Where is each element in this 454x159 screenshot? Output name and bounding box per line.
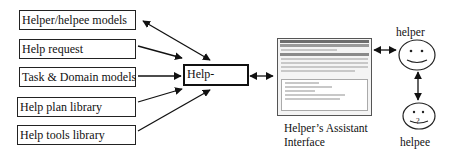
interface-label-line2: Interface	[284, 135, 368, 149]
help-plan-library-box: Help plan library	[17, 97, 136, 117]
helper-helpee-models-box: Helper/helpee models	[19, 10, 136, 30]
helpers-assistant-screenshot	[277, 38, 372, 116]
task-domain-models-box: Task & Domain models	[19, 67, 136, 87]
helper-face-icon	[397, 38, 437, 72]
interface-label-line1: Helper’s Assistant	[284, 121, 368, 135]
help-hub-box: Help-	[183, 64, 249, 86]
help-tools-library-box: Help tools library	[17, 125, 136, 145]
helpee-label: helpee	[400, 135, 430, 149]
helper-label: helper	[396, 25, 425, 39]
helpee-face-icon: ?	[401, 101, 437, 131]
box-label: Task & Domain models	[22, 70, 136, 84]
hub-label: Help-	[187, 67, 214, 81]
interface-label: Helper’s Assistant Interface	[284, 121, 368, 149]
svg-text:?: ?	[416, 117, 420, 126]
box-label: Help tools library	[20, 128, 105, 142]
box-label: Helper/helpee models	[22, 13, 127, 27]
box-label: Help request	[22, 42, 83, 56]
box-label: Help plan library	[20, 100, 102, 114]
help-request-box: Help request	[19, 39, 136, 59]
